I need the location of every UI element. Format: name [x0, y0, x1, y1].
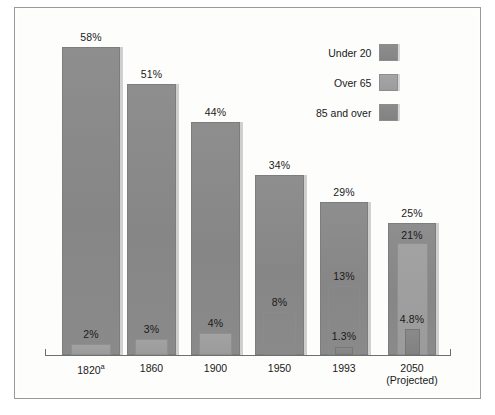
value-label-over85-1993: 1.3%	[320, 330, 368, 342]
x-tick-label-1820-text: 1820	[77, 364, 100, 376]
value-label-under20-1993: 29%	[320, 186, 368, 198]
value-label-over65-1820: 2%	[62, 328, 120, 340]
value-label-over65-2050: 21%	[388, 229, 436, 241]
x-tick-label-1820: 1820a	[62, 362, 120, 376]
bar-over85-1993[interactable]	[335, 347, 353, 355]
value-label-over65-1993: 13%	[320, 270, 368, 282]
value-label-under20-1900: 44%	[191, 106, 240, 118]
x-tick-label-1900: 1900	[191, 362, 240, 374]
chart-screenshot: 58% 2% 51% 3% 44% 4% 34% 8%	[0, 0, 495, 415]
x-axis-tick-right	[450, 349, 451, 355]
x-tick-label-1900-text: 1900	[204, 362, 227, 374]
bar-over65-1820[interactable]	[71, 344, 111, 355]
legend-label-over85: 85 and over	[316, 107, 371, 119]
x-tick-label-1993: 1993	[320, 362, 368, 374]
x-axis-line	[45, 355, 451, 356]
value-label-over65-1860: 3%	[127, 323, 176, 335]
bar-over65-1993[interactable]	[328, 286, 360, 355]
value-label-over85-2050: 4.8%	[388, 313, 436, 325]
bar-over85-2050[interactable]	[405, 329, 420, 355]
x-tick-label-2050: 2050 (Projected)	[378, 362, 446, 386]
legend-swatch-under20-icon	[379, 44, 398, 61]
bar-over65-1950[interactable]	[263, 312, 296, 355]
value-label-under20-2050: 25%	[388, 207, 436, 219]
x-tick-label-1993-text: 1993	[332, 362, 355, 374]
legend-item-over65[interactable]: Over 65	[316, 74, 398, 91]
x-tick-label-1860: 1860	[127, 362, 176, 374]
x-tick-label-1950-text: 1950	[268, 362, 291, 374]
x-tick-label-2050-text: 2050	[400, 362, 423, 374]
legend-label-under20: Under 20	[328, 47, 371, 59]
legend-label-over65: Over 65	[334, 77, 371, 89]
legend-swatch-over85-icon	[379, 104, 398, 121]
value-label-under20-1950: 34%	[255, 159, 304, 171]
x-tick-label-1950: 1950	[255, 362, 304, 374]
plot-area: 58% 2% 51% 3% 44% 4% 34% 8%	[0, 0, 495, 415]
value-label-under20-1860: 51%	[127, 68, 176, 80]
x-tick-footnote-1820: a	[101, 362, 105, 371]
bar-under20-1860[interactable]	[127, 84, 176, 355]
chart-legend: Under 20 Over 65 85 and over	[316, 44, 398, 134]
bar-under20-1820[interactable]	[62, 47, 120, 355]
bar-over65-1900[interactable]	[199, 333, 232, 355]
x-tick-sublabel-2050: (Projected)	[378, 374, 446, 386]
legend-item-under20[interactable]: Under 20	[316, 44, 398, 61]
value-label-over65-1900: 4%	[191, 317, 240, 329]
legend-item-over85[interactable]: 85 and over	[316, 104, 398, 121]
bar-over65-1860[interactable]	[135, 339, 168, 355]
x-tick-label-1860-text: 1860	[140, 362, 163, 374]
value-label-under20-1820: 58%	[62, 31, 120, 43]
x-axis-tick-left	[45, 349, 46, 355]
legend-swatch-over65-icon	[379, 74, 398, 91]
value-label-over65-1950: 8%	[255, 296, 304, 308]
